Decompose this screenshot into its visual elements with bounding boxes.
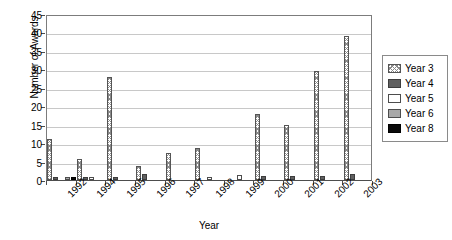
bar: [314, 71, 319, 180]
bar: [284, 125, 289, 180]
x-axis-tick-label: 2003: [361, 192, 369, 200]
legend-item: Year 6: [388, 106, 443, 121]
y-axis-tick-label: 35: [2, 46, 42, 57]
plot-area: [46, 15, 372, 181]
bar-group: [225, 16, 255, 180]
x-axis-tick-label: 1999: [243, 192, 251, 200]
y-axis-tick-label: 30: [2, 65, 42, 76]
legend-label: Year 5: [405, 94, 434, 104]
legend-swatch: [388, 79, 401, 88]
y-axis-tick-label: 40: [2, 28, 42, 39]
legend-item: Year 4: [388, 76, 443, 91]
bar-group: [77, 16, 107, 180]
bar-group: [254, 16, 284, 180]
bar: [107, 77, 112, 180]
x-axis-tick-label: 2002: [332, 192, 340, 200]
bar-group: [284, 16, 314, 180]
legend-swatch: [388, 124, 401, 133]
bar-group: [47, 16, 77, 180]
x-axis-tick-label: 2000: [272, 192, 280, 200]
y-axis-tick-label: 45: [2, 10, 42, 21]
bar-group: [343, 16, 373, 180]
bar: [344, 36, 349, 180]
bar: [237, 175, 242, 180]
x-axis-tick-label: 1995: [124, 192, 132, 200]
bar-group: [106, 16, 136, 180]
bar: [207, 177, 212, 180]
y-axis-tick-label: 15: [2, 120, 42, 131]
bar-group: [195, 16, 225, 180]
bar-groups: [47, 16, 371, 180]
bar: [255, 114, 260, 180]
bar-group: [136, 16, 166, 180]
y-axis-tick-label: 0: [2, 176, 42, 187]
y-axis-tick-label: 20: [2, 102, 42, 113]
y-axis-tick-labels: 051015202530354045: [0, 15, 42, 181]
bar-group: [314, 16, 344, 180]
y-axis-tick-label: 10: [2, 139, 42, 150]
legend-item: Year 3: [388, 61, 443, 76]
legend-item: Year 5: [388, 91, 443, 106]
bar: [89, 177, 94, 180]
legend-label: Year 8: [405, 124, 434, 134]
legend-swatch: [388, 64, 401, 73]
x-axis-tick-label: 1992: [65, 192, 73, 200]
chart-legend: Year 3Year 4Year 5Year 6Year 8: [382, 55, 448, 142]
x-axis-tick: [46, 181, 47, 185]
legend-swatch: [388, 94, 401, 103]
x-axis-tick-label: 2001: [302, 192, 310, 200]
bar-group: [166, 16, 196, 180]
y-axis-tick-label: 25: [2, 83, 42, 94]
legend-swatch: [388, 109, 401, 118]
bar-chart: Number of Awards 051015202530354045 1992…: [0, 0, 452, 240]
legend-label: Year 3: [405, 64, 434, 74]
x-axis-tick-label: 1998: [213, 192, 221, 200]
x-axis-title: Year: [46, 220, 372, 231]
bar: [47, 139, 52, 180]
y-axis-tick-label: 5: [2, 157, 42, 168]
bar: [53, 177, 58, 180]
legend-item: Year 8: [388, 121, 443, 136]
bar: [65, 177, 70, 180]
x-axis-tick-label: 1994: [95, 192, 103, 200]
x-axis-tick-label: 1996: [154, 192, 162, 200]
x-axis-tick-label: 1997: [183, 192, 191, 200]
legend-label: Year 4: [405, 79, 434, 89]
legend-label: Year 6: [405, 109, 434, 119]
